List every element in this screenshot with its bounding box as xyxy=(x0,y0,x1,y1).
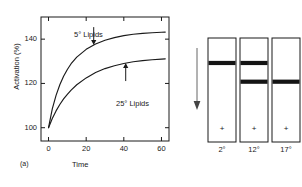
panel-b-gel-lanes: +2°+12°+17° (b) xyxy=(190,0,302,187)
series-label-5-lipids: 5° Lipids xyxy=(74,30,103,39)
lane-polarity-marker: + xyxy=(271,125,301,133)
panel-a-caption: (a) xyxy=(20,160,29,167)
gel-band xyxy=(241,61,268,65)
lane-label: 12° xyxy=(239,145,269,154)
y-tick-label: 100 xyxy=(13,123,37,132)
activation-plot-svg xyxy=(0,0,190,187)
x-axis-ticks xyxy=(49,17,162,141)
y-tick-label: 120 xyxy=(13,78,37,87)
y-tick-label: 140 xyxy=(13,34,37,43)
gel-svg xyxy=(190,0,302,187)
figure-container: Activation (%) Time 5° Lipids 25° Lipids… xyxy=(0,0,302,187)
y-axis-label: Activation (%) xyxy=(12,37,21,97)
curve-group xyxy=(49,32,166,128)
x-tick-label: 60 xyxy=(146,144,176,153)
x-tick-label: 0 xyxy=(34,144,64,153)
x-tick-label: 40 xyxy=(109,144,139,153)
curve-series-1 xyxy=(49,59,166,128)
lane-label: 2° xyxy=(207,145,237,154)
gel-band xyxy=(273,80,300,84)
lane-polarity-marker: + xyxy=(207,125,237,133)
gel-band xyxy=(241,80,268,84)
lane-polarity-marker: + xyxy=(239,125,269,133)
lane-label: 17° xyxy=(271,145,301,154)
migration-direction-arrow xyxy=(194,48,201,110)
plot-frame xyxy=(41,17,169,141)
x-axis-label: Time xyxy=(72,160,88,169)
panel-a-activation-chart: Activation (%) Time 5° Lipids 25° Lipids… xyxy=(0,0,190,187)
series-label-25-lipids: 25° Lipids xyxy=(116,99,149,108)
curve-series-0 xyxy=(49,32,166,128)
gel-band xyxy=(209,61,236,65)
x-tick-label: 20 xyxy=(71,144,101,153)
